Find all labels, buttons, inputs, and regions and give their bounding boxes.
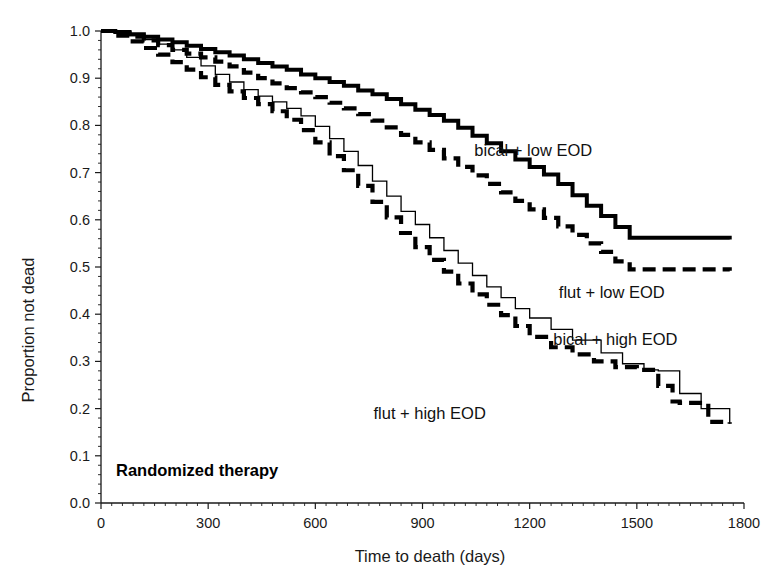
y-tick-label: 0.8 <box>70 117 90 133</box>
x-tick-label: 1800 <box>728 515 760 531</box>
x-tick-label: 1500 <box>621 515 653 531</box>
y-tick-label: 0.6 <box>70 212 90 228</box>
y-tick-label: 0.4 <box>70 306 90 322</box>
y-tick-labels: 0.00.10.20.30.40.50.60.70.80.91.0 <box>70 23 90 511</box>
curve-series-3 <box>101 31 730 424</box>
y-tick-label: 0.3 <box>70 353 90 369</box>
x-tick-labels: 0300600900120015001800 <box>97 515 760 531</box>
y-axis-title: Proportion not dead <box>19 258 37 403</box>
series-label-0: bical + low EOD <box>474 141 592 159</box>
y-tick-label: 0.1 <box>70 448 90 464</box>
y-tick-label: 0.0 <box>70 495 90 511</box>
series-label-1: flut + low EOD <box>559 283 665 301</box>
curve-series-2 <box>101 31 730 424</box>
y-tick-label: 0.2 <box>70 401 90 417</box>
x-tick-label: 300 <box>196 515 220 531</box>
x-tick-label: 600 <box>303 515 327 531</box>
randomized-therapy-annotation: Randomized therapy <box>116 461 279 479</box>
x-tick-label: 900 <box>410 515 434 531</box>
series-labels: bical + low EODflut + low EODbical + hig… <box>373 141 677 422</box>
chart-page: 0.00.10.20.30.40.50.60.70.80.91.0 030060… <box>0 0 781 587</box>
y-tick-label: 1.0 <box>70 23 90 39</box>
y-tick-label: 0.9 <box>70 70 90 86</box>
curve-series-1 <box>101 31 730 271</box>
y-tick-label: 0.7 <box>70 165 90 181</box>
x-tick-label: 1200 <box>514 515 546 531</box>
data-curves <box>101 31 730 424</box>
y-tick-label: 0.5 <box>70 259 90 275</box>
survival-curve-chart: 0.00.10.20.30.40.50.60.70.80.91.0 030060… <box>0 0 781 587</box>
axes <box>101 31 744 503</box>
curve-series-0 <box>101 31 730 240</box>
x-axis-title: Time to death (days) <box>355 547 506 565</box>
series-label-3: flut + high EOD <box>373 404 485 422</box>
x-tick-label: 0 <box>97 515 105 531</box>
series-label-2: bical + high EOD <box>553 330 677 348</box>
